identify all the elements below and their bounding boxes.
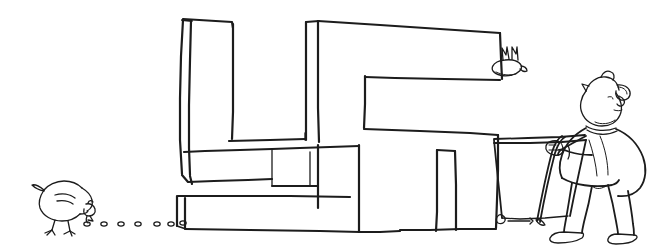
paper-background (0, 0, 660, 250)
line-drawing (0, 0, 660, 250)
artwork-canvas: Chicken and Trap Cartoon A hen at the le… (0, 0, 660, 250)
